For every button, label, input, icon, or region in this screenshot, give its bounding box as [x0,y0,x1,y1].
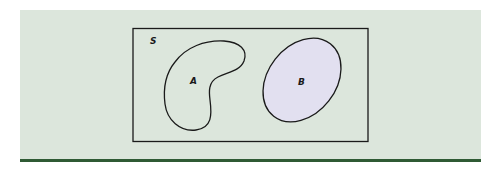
set-a-region [164,41,245,130]
bottom-rule [20,159,481,162]
sample-space-label: S [150,36,156,46]
venn-diagram: S A B [0,0,503,169]
set-b-label: B [298,77,305,87]
set-a-label: A [189,76,197,86]
